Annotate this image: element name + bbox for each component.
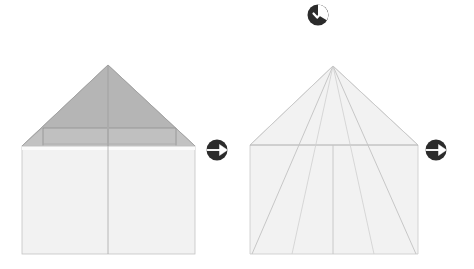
turn-over-arrow-left[interactable] <box>207 140 228 161</box>
turn-over-arrow-shaft-right <box>426 149 443 151</box>
turn-over-arrow-right[interactable] <box>426 140 447 161</box>
turn-over-arrow-shaft-left <box>207 149 224 151</box>
origami-diagram <box>0 0 474 269</box>
rotate-arrow-top[interactable] <box>308 5 329 26</box>
bottom-square-panel <box>22 146 195 254</box>
fold-highlight-strip <box>22 146 195 150</box>
left-inner-flap-core <box>43 128 107 146</box>
right-inner-flap-core <box>109 128 176 146</box>
diagram-canvas: Origami folding instruction diagram Squa… <box>0 0 474 269</box>
